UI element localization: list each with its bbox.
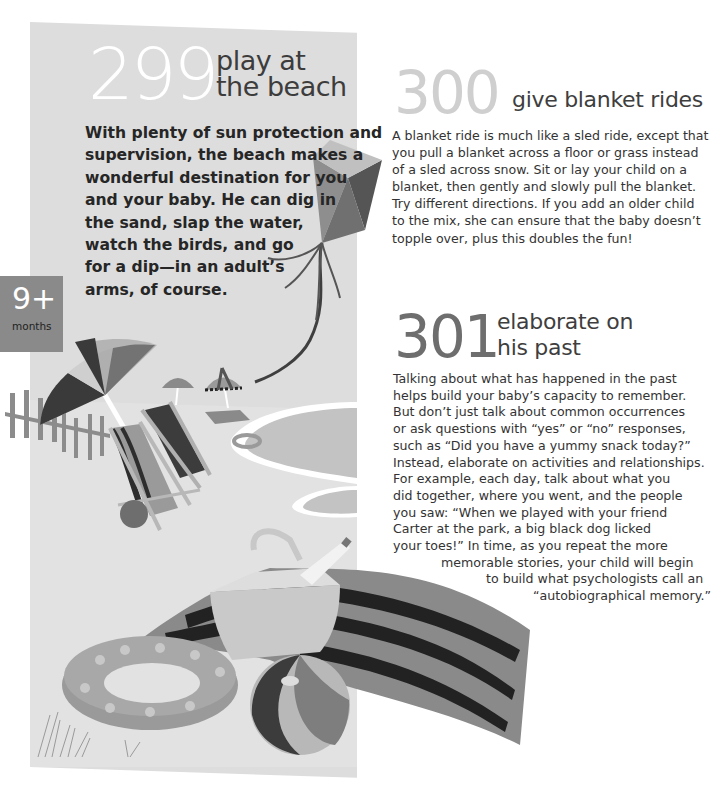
body-line: topple over, plus this doubles the fun! [392, 230, 712, 247]
distant-umbrella-2 [205, 368, 242, 408]
body-line: your toes!” In time, as you repeat the m… [393, 538, 713, 555]
entry-body: A blanket ride is much like a sled ride,… [392, 127, 712, 247]
body-line: A blanket ride is much like a sled ride,… [392, 127, 712, 144]
entry-number: 299 [88, 38, 216, 110]
body-line: memorable stories, your child will begin [393, 555, 713, 572]
entry-title-line: the beach [216, 74, 347, 100]
entry-body: Talking about what has happened in the p… [393, 371, 713, 605]
body-line: did together, where you went, and the pe… [393, 488, 713, 505]
body-line: Talking about what has happened in the p… [393, 371, 713, 388]
age-badge-unit: months [12, 320, 52, 332]
entry-title: give blanket rides [512, 88, 703, 112]
body-line: With plenty of sun protection and [85, 122, 345, 144]
body-line: But don’t just talk about common occurre… [393, 404, 713, 421]
body-line: arms, of course. [85, 279, 345, 301]
body-line: or ask questions with “yes” or “no” resp… [393, 421, 713, 438]
beach-ball [250, 655, 350, 755]
body-line: supervision, the beach makes a [85, 144, 345, 166]
body-line: you pull a blanket across a floor or gra… [392, 144, 712, 161]
body-line: you saw: “When we played with your frien… [393, 505, 713, 522]
body-line: blanket, then gently and slowly pull the… [392, 178, 712, 195]
body-line: Carter at the park, a big black dog lick… [393, 521, 713, 538]
body-line: watch the birds, and go [85, 234, 345, 256]
body-line: For example, each day, talk about what y… [393, 471, 713, 488]
body-line: “autobiographical memory.” [393, 588, 713, 605]
age-badge: 9+ months [0, 276, 63, 352]
body-line: helps build your baby’s capacity to reme… [393, 388, 713, 405]
body-line: for a dip—in an adult’s [85, 256, 345, 278]
small-ball [120, 500, 148, 528]
body-line: of a sled across snow. Sit or lay your c… [392, 161, 712, 178]
body-line: such as “Did you have a yummy snack toda… [393, 438, 713, 455]
body-line: Try different directions. If you add an … [392, 195, 712, 212]
entry-title: elaborate on his past [497, 309, 633, 361]
entry-number: 301 [394, 308, 499, 366]
inflatable-ring [62, 636, 238, 730]
distant-umbrella-1 [162, 378, 194, 405]
body-line: and your baby. He can dig in [85, 189, 345, 211]
body-line: the sand, slap the water, [85, 212, 345, 234]
body-line: wonderful destination for you [85, 167, 345, 189]
age-badge-value: 9+ [12, 284, 56, 314]
body-line: to build what psychologists call an [393, 571, 713, 588]
entry-title: play at the beach [216, 48, 347, 100]
entry-title-line: elaborate on [497, 309, 633, 335]
body-line: Instead, elaborate on activities and rel… [393, 455, 713, 472]
entry-title-line: his past [497, 335, 633, 361]
body-line: to the mix, she can ensure that the baby… [392, 212, 712, 229]
entry-body: With plenty of sun protection and superv… [85, 122, 345, 301]
entry-number: 300 [394, 64, 499, 122]
